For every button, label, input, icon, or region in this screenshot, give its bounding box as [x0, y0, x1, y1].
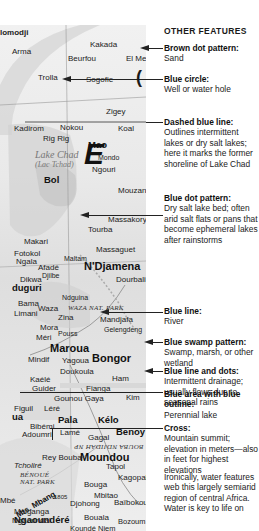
place-bama: Bama	[18, 300, 39, 308]
place-massaguet: Massaguet	[96, 246, 135, 254]
place-djilbe: Djilbe	[42, 272, 60, 279]
place-baibokoum: Baïbokoum	[114, 499, 146, 507]
place-ngala: Ngala	[16, 258, 37, 266]
park-benoue: BÉNOUÉ NAT. PARK	[20, 472, 60, 486]
place-doukoula: Doukoula	[60, 368, 94, 376]
place-koal: Koal	[118, 125, 134, 133]
legend-description: Dry salt lake bed; often arid salt flats…	[164, 203, 259, 245]
legend-description: River	[164, 316, 259, 326]
place-massakory: Massakory	[108, 216, 146, 224]
place-bongor: Bongor	[92, 353, 131, 364]
legend-item-dashed-line: Dashed blue line: Outlines intermittent …	[164, 117, 259, 169]
place-pouss: Pouss	[58, 330, 77, 337]
place-lere: Léré	[44, 405, 60, 413]
place-gelengdeng: Gelengdeng	[104, 326, 142, 333]
place-lame: Lamé	[60, 429, 80, 437]
legend-heading: Dashed blue line:	[164, 117, 259, 127]
place-adoumri: Adoumri	[22, 431, 52, 439]
place-lomodji: lomodji	[0, 29, 28, 37]
legend-heading: Brown dot pattern:	[164, 43, 259, 53]
legend-item-perennial-lake: Blue area with blue outline: Perennial l…	[164, 389, 259, 420]
place-mao: Mao	[88, 140, 107, 150]
legend-item-cross: Cross: Mountain summit; elevation in met…	[164, 423, 259, 475]
legend-item-brown-dot: Brown dot pattern: Sand	[164, 43, 259, 64]
legend-note: Ironically, water features web this larg…	[164, 472, 259, 514]
place-maroua: Maroua	[50, 343, 89, 354]
well-icon: (	[136, 68, 142, 86]
place-kagopal: Kagopal	[118, 474, 146, 482]
place-mora: Mora	[40, 324, 58, 332]
place-ham: Ham	[112, 375, 129, 383]
place-arma: Arma	[12, 48, 31, 56]
place-el-mes: El Mes	[126, 55, 146, 63]
legend-heading: Blue line:	[164, 306, 259, 316]
arrow-swamp	[152, 342, 163, 343]
place-mouzan: Mouzan	[118, 187, 146, 195]
place-tchollire: Tcholiré	[14, 462, 42, 470]
place-beurfou: Beurfou	[68, 55, 96, 63]
place-rig-rig: Rig Rig	[43, 135, 69, 143]
arrow-dashed-line	[146, 122, 163, 123]
place-kounde: Koundé	[70, 525, 96, 531]
place-pala: Pala	[58, 415, 78, 425]
place-nduguina: Ndguina	[62, 294, 88, 301]
legend-item-blue-line: Blue line: River	[164, 306, 259, 327]
park-bouba-ndjidah: BOUBA NDJIDAH NP	[74, 443, 144, 450]
place-zigey: Zigey	[106, 108, 126, 116]
place-niem: Niem	[98, 525, 116, 531]
place-tourba: Tourba	[88, 226, 112, 234]
place-sogofie: Sogofie	[86, 76, 113, 84]
place-kadirom: Kadirom	[14, 125, 44, 133]
place-kim: Kim	[126, 394, 140, 402]
place-ngaoundal: Ngaoundal	[12, 517, 51, 525]
place-kakada: Kakada	[90, 41, 117, 49]
place-bouala: Bouala	[84, 514, 109, 522]
place-mbe: Mbé	[0, 497, 16, 505]
legend-heading: Blue swamp pattern:	[164, 337, 259, 347]
place-afade: Afadé	[38, 264, 59, 272]
lake-chad-label: Lake Chad	[35, 150, 79, 160]
legend-heading: Cross:	[164, 423, 259, 433]
place-ndjamena: N'Djamena	[84, 261, 140, 272]
place-meri: Méri	[36, 334, 52, 342]
place-dourbali: Dourbali	[116, 276, 146, 284]
place-djohong: Djohong	[70, 500, 100, 508]
place-limani: Limani	[14, 310, 38, 318]
place-kelo: Kélo	[98, 415, 119, 425]
legend-description: Outlines intermittent lakes or dry salt …	[164, 127, 259, 169]
legend-item-swamp: Blue swamp pattern: Swamp, marsh, or oth…	[164, 337, 259, 368]
place-nokou: Nokou	[60, 124, 83, 132]
legend-heading: Blue circle:	[164, 74, 259, 84]
legend-title: OTHER FEATURES	[164, 26, 247, 36]
place-zina: Zina	[58, 314, 74, 322]
place-gagal: Gagal	[88, 434, 109, 442]
legend-heading: Blue line and dots:	[164, 366, 259, 376]
place-duguri: duguri	[12, 283, 42, 293]
place-rey-bouba: Rey Bouba	[42, 454, 82, 462]
place-waza: Waza	[38, 305, 58, 313]
place-makari: Makari	[24, 238, 48, 246]
place-mindif: Mindif	[28, 356, 49, 364]
place-bouga: Bouga	[84, 481, 107, 489]
lake-chad-label-fr: (Lac Tchad)	[35, 161, 74, 169]
place-mandjafa: Mandjafa	[100, 316, 133, 324]
legend-item-blue-circle: Blue circle: Well or water hole	[164, 74, 259, 95]
place-tapol: Tapol	[106, 463, 125, 471]
place-bozoum: Bozoum	[118, 518, 146, 526]
arrow-blue-line	[108, 312, 163, 313]
place-trolla: Trolla	[38, 74, 58, 82]
arrow-trolla	[70, 79, 136, 80]
place-bol: Bol	[44, 175, 59, 185]
place-ngouri: Ngouri	[92, 166, 116, 174]
place-garoua: ua	[12, 412, 23, 422]
arrow-brown-dot	[148, 48, 163, 49]
legend-description: Mountain summit; elevation in meters—als…	[164, 433, 259, 475]
legend-item-blue-dot: Blue dot pattern: Dry salt lake bed; oft…	[164, 193, 259, 245]
map-region: lomodji Arma Kakada Beurfou El Mes Troll…	[0, 25, 146, 531]
arrow-cross	[50, 428, 163, 429]
legend-heading: Blue dot pattern:	[164, 193, 259, 203]
legend-heading: Blue area with blue outline:	[164, 389, 259, 410]
place-mondo: Mondo	[98, 154, 119, 161]
legend-description: Sand	[164, 53, 259, 63]
place-meiganga: Meiganga	[14, 508, 49, 516]
